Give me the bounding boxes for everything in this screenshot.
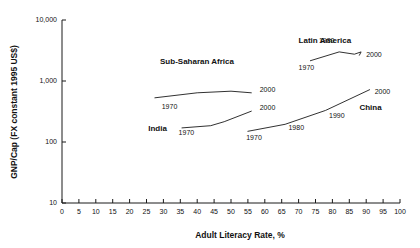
series-name-label: Sub-Saharan Africa — [160, 57, 234, 66]
x-tick-label: 80 — [329, 208, 337, 215]
x-tick-label: 60 — [261, 208, 269, 215]
series-line — [310, 52, 361, 61]
x-tick-label: 100 — [394, 208, 406, 215]
x-tick-label: 25 — [143, 208, 151, 215]
x-tick-label: 30 — [160, 208, 168, 215]
series-annotations: Sub-Saharan Africa19702000India19702000L… — [148, 36, 390, 141]
year-annotation: 2000 — [260, 104, 276, 111]
x-tick-label: 35 — [176, 208, 184, 215]
year-annotation: 1970 — [179, 129, 195, 136]
year-annotation: 1980 — [288, 124, 304, 131]
x-tick-label: 10 — [92, 208, 100, 215]
chart-container: 101001,00010,000 05101520253035404550556… — [0, 0, 420, 248]
year-annotation: 2000 — [260, 86, 276, 93]
year-annotation: 1970 — [299, 64, 315, 71]
x-tick-label: 50 — [227, 208, 235, 215]
year-annotation: 1980 — [319, 37, 335, 44]
y-axis: 101001,00010,000 — [36, 16, 66, 206]
year-annotation: 2000 — [366, 51, 382, 58]
x-axis: 0510152025303540455055606570758085909510… — [60, 199, 406, 215]
year-annotation: 2000 — [375, 88, 391, 95]
x-tick-label: 75 — [312, 208, 320, 215]
series-line — [182, 111, 251, 128]
y-tick-label: 1,000 — [39, 77, 57, 84]
x-tick-label: 0 — [60, 208, 64, 215]
series-line — [155, 91, 251, 98]
x-tick-label: 15 — [109, 208, 117, 215]
year-annotation: 1970 — [246, 134, 262, 141]
x-tick-label: 5 — [77, 208, 81, 215]
literacy-gnp-scatter-line-chart: 101001,00010,000 05101520253035404550556… — [0, 0, 420, 248]
series-name-label: China — [359, 103, 382, 112]
y-tick-label: 100 — [45, 138, 57, 145]
x-tick-label: 45 — [210, 208, 218, 215]
year-annotation: 1970 — [162, 103, 178, 110]
x-tick-label: 70 — [295, 208, 303, 215]
series-name-label: India — [148, 124, 167, 133]
y-axis-title: GNP/Cap (FX constant 1995 US$) — [9, 45, 19, 179]
x-tick-label: 90 — [362, 208, 370, 215]
y-tick-label: 10 — [49, 199, 57, 206]
x-tick-label: 20 — [126, 208, 134, 215]
x-tick-label: 65 — [278, 208, 286, 215]
x-tick-label: 95 — [379, 208, 387, 215]
x-tick-label: 55 — [244, 208, 252, 215]
x-axis-title: Adult Literacy Rate, % — [195, 230, 285, 240]
x-tick-label: 85 — [345, 208, 353, 215]
year-annotation: 1990 — [329, 112, 345, 119]
x-tick-label: 40 — [193, 208, 201, 215]
y-tick-label: 10,000 — [36, 16, 58, 23]
